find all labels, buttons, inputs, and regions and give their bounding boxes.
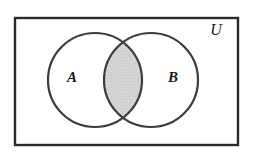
venn-diagram-figure: A B U [0,0,255,152]
set-b-label: B [167,69,178,85]
venn-diagram-canvas: A B U [0,0,255,152]
set-a-label: A [66,69,77,85]
universal-set-label: U [210,21,223,38]
